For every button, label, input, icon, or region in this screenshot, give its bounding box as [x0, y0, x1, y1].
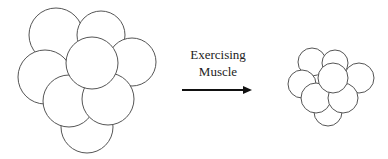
label-muscle: Muscle: [199, 64, 238, 79]
cell-circle: [66, 37, 118, 89]
small-cell-cluster: [288, 48, 374, 126]
right-arrow-icon: [182, 86, 252, 94]
label-exercising: Exercising: [190, 47, 246, 62]
transition-label: Exercising Muscle: [190, 47, 246, 79]
large-cell-cluster: [18, 8, 156, 153]
cell-circle: [318, 63, 348, 93]
diagram-canvas: Exercising Muscle: [0, 0, 388, 159]
